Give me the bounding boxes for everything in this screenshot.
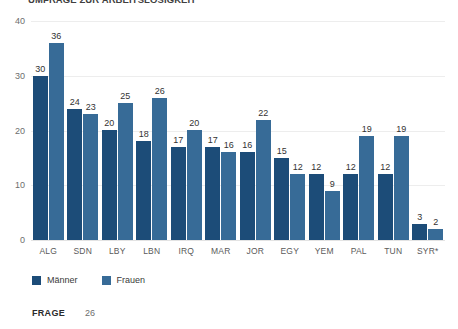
bar[interactable] [428, 229, 443, 240]
bar[interactable] [378, 174, 393, 240]
bar[interactable] [83, 114, 98, 240]
bar-item[interactable]: 18 [136, 21, 151, 240]
bar-value-label: 15 [277, 146, 287, 157]
chart-figure: UMFRAGE ZUR ARBEITSLOSIGKEIT 010203040 3… [0, 0, 458, 329]
bar[interactable] [240, 152, 255, 240]
bar[interactable] [309, 174, 324, 240]
x-axis-tick-alg: ALG [31, 246, 65, 256]
bar-item[interactable]: 22 [256, 21, 271, 240]
bar-item[interactable]: 15 [274, 21, 289, 240]
bar-item[interactable]: 20 [187, 21, 202, 240]
bar-value-label: 12 [380, 162, 390, 173]
x-axis-tick-sdn: SDN [66, 246, 100, 256]
y-axis-tick-10: 10 [15, 180, 25, 190]
chart-footer: FRAGE 26 [32, 308, 95, 318]
bar-item[interactable]: 19 [359, 21, 374, 240]
bar-item[interactable]: 25 [118, 21, 133, 240]
chart-title-clipped: UMFRAGE ZUR ARBEITSLOSIGKEIT [28, 0, 358, 6]
legend-swatch-icon [102, 276, 111, 285]
bar[interactable] [256, 120, 271, 240]
legend-label: Männer [47, 275, 78, 285]
bar-value-label: 19 [396, 124, 406, 135]
gridline-0 [31, 240, 445, 241]
bar-item[interactable]: 12 [343, 21, 358, 240]
y-axis-tick-40: 40 [15, 16, 25, 26]
bar[interactable] [102, 130, 117, 240]
bar-value-label: 20 [104, 118, 114, 129]
bar-item[interactable]: 3 [412, 21, 427, 240]
bar-item[interactable]: 17 [171, 21, 186, 240]
bar-value-label: 23 [86, 102, 96, 113]
bar[interactable] [325, 191, 340, 240]
bar-value-label: 12 [311, 162, 321, 173]
bar[interactable] [67, 109, 82, 240]
bar-item[interactable]: 23 [83, 21, 98, 240]
bar[interactable] [205, 147, 220, 240]
bar-value-label: 30 [35, 64, 45, 75]
bar[interactable] [152, 98, 167, 240]
x-axis-tick-syr: SYR* [411, 246, 445, 256]
bar-value-label: 12 [346, 162, 356, 173]
bar-series-container: 3036242320251826172017161622151212912191… [31, 21, 445, 240]
y-axis-tick-0: 0 [20, 235, 25, 245]
bar-group: 1720 [169, 21, 203, 240]
bar-item[interactable]: 19 [394, 21, 409, 240]
bar-item[interactable]: 12 [309, 21, 324, 240]
bar-item[interactable]: 9 [325, 21, 340, 240]
page-title: UMFRAGE ZUR ARBEITSLOSIGKEIT [28, 0, 358, 5]
bar[interactable] [49, 43, 64, 240]
bar-item[interactable]: 26 [152, 21, 167, 240]
bar-value-label: 9 [330, 179, 335, 190]
bar-group: 1219 [376, 21, 410, 240]
bar-item[interactable]: 16 [240, 21, 255, 240]
bar-item[interactable]: 2 [428, 21, 443, 240]
legend-item[interactable]: Männer [32, 275, 78, 285]
x-axis-tick-lby: LBY [100, 246, 134, 256]
bar[interactable] [394, 136, 409, 240]
bar[interactable] [118, 103, 133, 240]
bar-value-label: 16 [224, 140, 234, 151]
bar[interactable] [171, 147, 186, 240]
bar-group: 2025 [100, 21, 134, 240]
bar-item[interactable]: 20 [102, 21, 117, 240]
y-axis-tick-20: 20 [15, 126, 25, 136]
bar-item[interactable]: 12 [378, 21, 393, 240]
bar-value-label: 19 [362, 124, 372, 135]
x-axis-tick-jor: JOR [238, 246, 272, 256]
legend-label: Frauen [117, 275, 146, 285]
bar[interactable] [359, 136, 374, 240]
bar-group: 1826 [135, 21, 169, 240]
legend-item[interactable]: Frauen [102, 275, 146, 285]
chart-legend: MännerFrauen [32, 275, 145, 285]
bar[interactable] [274, 158, 289, 240]
bar[interactable] [136, 141, 151, 240]
bar-group: 1512 [273, 21, 307, 240]
bar[interactable] [343, 174, 358, 240]
bar-value-label: 2 [433, 217, 438, 228]
bar[interactable] [187, 130, 202, 240]
bar-value-label: 26 [155, 86, 165, 97]
footer-value: 26 [85, 308, 95, 318]
bar-group: 1716 [204, 21, 238, 240]
x-axis-tick-lbn: LBN [135, 246, 169, 256]
bar-value-label: 16 [242, 140, 252, 151]
bar-item[interactable]: 16 [221, 21, 236, 240]
bar-item[interactable]: 30 [33, 21, 48, 240]
x-axis-tick-mar: MAR [204, 246, 238, 256]
bar[interactable] [412, 224, 427, 240]
bar[interactable] [33, 76, 48, 240]
bar-value-label: 17 [173, 135, 183, 146]
bar-group: 1622 [238, 21, 272, 240]
bar-item[interactable]: 36 [49, 21, 64, 240]
bar-value-label: 20 [189, 118, 199, 129]
x-axis-tick-yem: YEM [307, 246, 341, 256]
bar-group: 1219 [342, 21, 376, 240]
x-axis-tick-egy: EGY [273, 246, 307, 256]
bar[interactable] [290, 174, 305, 240]
bar-item[interactable]: 24 [67, 21, 82, 240]
bar-group: 129 [307, 21, 341, 240]
bar-item[interactable]: 17 [205, 21, 220, 240]
bar-item[interactable]: 12 [290, 21, 305, 240]
bar-group: 2423 [66, 21, 100, 240]
bar[interactable] [221, 152, 236, 240]
